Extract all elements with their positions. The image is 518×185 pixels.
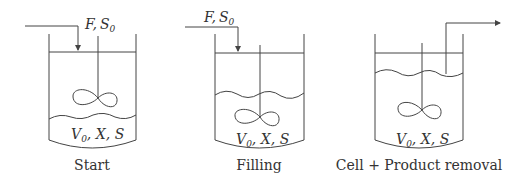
contents-label: V0, X, S [71, 126, 124, 144]
fed-batch-diagram: F,S0 V0, X, S Start F,S0 V0, X, S Fillin… [0, 0, 518, 185]
feed-inlet-arrow [25, 26, 78, 50]
contents-label: V0, X, S [396, 131, 449, 149]
liquid-surface [49, 113, 136, 119]
vessel-start: F,S0 V0, X, S Start [25, 16, 136, 173]
caption-start: Start [74, 157, 110, 173]
vessel-removal: V0, X, S Cell + Product removal [336, 23, 503, 173]
impeller-icon [235, 109, 279, 125]
liquid-surface [375, 70, 463, 77]
impeller-icon [73, 90, 117, 107]
vessel-filling: F,S0 V0, X, S Filling [185, 9, 304, 173]
feed-inlet-arrow [185, 27, 238, 51]
feed-label: F,S0 [203, 9, 235, 27]
contents-label: V0, X, S [236, 131, 289, 149]
caption-removal: Cell + Product removal [336, 157, 503, 173]
caption-filling: Filling [236, 157, 282, 173]
outlet-arrow [446, 23, 500, 74]
impeller-icon [398, 102, 441, 118]
feed-label: F,S0 [84, 16, 116, 34]
